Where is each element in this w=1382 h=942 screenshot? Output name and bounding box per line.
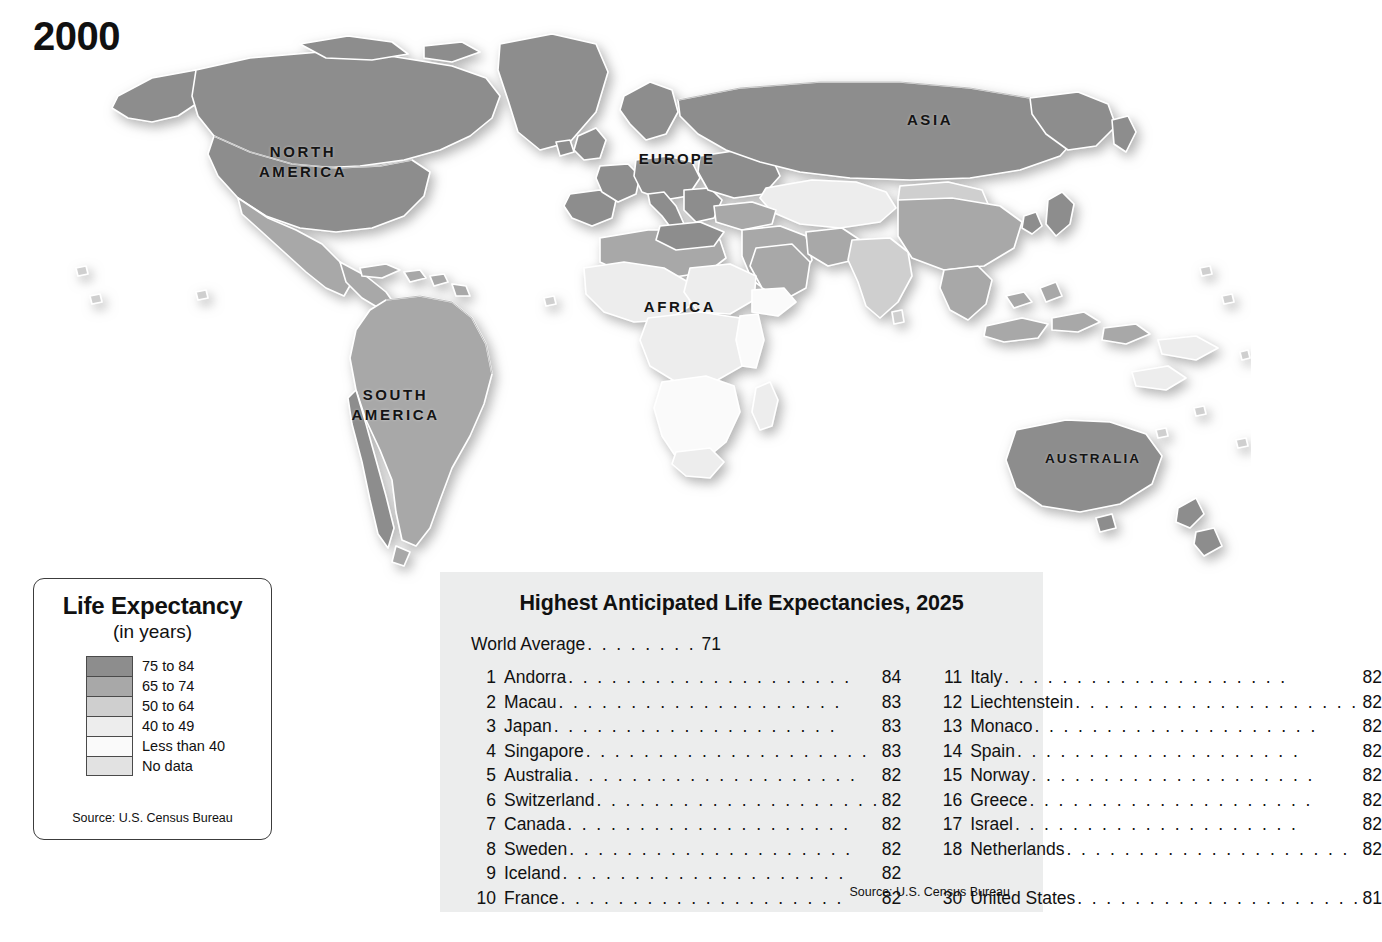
rank-value: 83	[882, 692, 901, 713]
rank-value: 82	[1362, 716, 1381, 737]
world-average-row: World Average . . . . . . . . 71	[471, 634, 721, 655]
dot-leader: . . . . . . . . . . . . . . . . . . . .	[1067, 839, 1361, 860]
dot-leader: . . . . . . . . . . . . . . . . . . . .	[1017, 741, 1361, 762]
rank-country-name: Macau	[504, 692, 557, 713]
rank-row: 18Netherlands. . . . . . . . . . . . . .…	[937, 839, 1382, 864]
rank-country-name: Norway	[970, 765, 1029, 786]
legend-swatch-less-than-40	[86, 736, 133, 756]
rank-row: 9Iceland. . . . . . . . . . . . . . . . …	[471, 863, 901, 888]
rank-country-name: Italy	[970, 667, 1002, 688]
rank-country-name: Andorra	[504, 667, 566, 688]
legend-label: 75 to 84	[142, 658, 194, 674]
rank-row: 15Norway. . . . . . . . . . . . . . . . …	[937, 765, 1382, 790]
rank-country-name: Japan	[504, 716, 552, 737]
legend-class-list: 75 to 84 65 to 74 50 to 64 40 to 49 Less…	[34, 656, 271, 776]
rank-number: 10	[471, 888, 496, 909]
rank-number: 8	[471, 839, 496, 860]
rank-row: 12Liechtenstein. . . . . . . . . . . . .…	[937, 692, 1382, 717]
rank-country-name: Switzerland	[504, 790, 594, 811]
legend-item: 50 to 64	[86, 696, 271, 716]
dot-leader: . . . . . . . . . . . . . . . . . . . .	[562, 863, 879, 884]
rank-row: 5Australia. . . . . . . . . . . . . . . …	[471, 765, 901, 790]
legend-label: 65 to 74	[142, 678, 194, 694]
legend-label: Less than 40	[142, 738, 225, 754]
rank-row: 2Macau. . . . . . . . . . . . . . . . . …	[471, 692, 901, 717]
legend-swatch-75-84	[86, 656, 133, 676]
legend-source: Source: U.S. Census Bureau	[34, 811, 271, 825]
legend-title: Life Expectancy	[34, 592, 271, 620]
rank-row-spacer	[937, 863, 1382, 888]
rank-country-name: Singapore	[504, 741, 584, 762]
rank-value: 82	[882, 863, 901, 884]
continent-label-africa: AFRICA	[625, 297, 735, 317]
legend-item: No data	[86, 756, 271, 776]
dot-leader: . . . . . . . . . . . . . . . . . . . .	[574, 765, 880, 786]
rank-country-name: Netherlands	[970, 839, 1064, 860]
dot-leader: . . . . . . . . . . . . . . . . . . . .	[559, 692, 880, 713]
dot-leader: . . . . . . . . . . . . . . . . . . . .	[586, 741, 880, 762]
rank-row: 4Singapore. . . . . . . . . . . . . . . …	[471, 741, 901, 766]
rank-number: 17	[937, 814, 962, 835]
rank-country-name: Spain	[970, 741, 1015, 762]
dot-leader: . . . . . . . . . . . . . . . . . . . .	[1032, 765, 1361, 786]
rank-value: 81	[1362, 888, 1381, 909]
rank-row: 6Switzerland. . . . . . . . . . . . . . …	[471, 790, 901, 815]
rank-number: 13	[937, 716, 962, 737]
continent-label-asia: ASIA	[880, 110, 980, 130]
rank-row: 3Japan. . . . . . . . . . . . . . . . . …	[471, 716, 901, 741]
continent-label-australia: AUSTRALIA	[1028, 450, 1158, 468]
legend-label: 40 to 49	[142, 718, 194, 734]
rank-number: 15	[937, 765, 962, 786]
rank-value: 83	[882, 716, 901, 737]
rank-number: 2	[471, 692, 496, 713]
rank-number: 18	[937, 839, 962, 860]
rank-number: 3	[471, 716, 496, 737]
rank-country-name: Monaco	[970, 716, 1032, 737]
panel-source: Source: U.S. Census Bureau	[850, 885, 1011, 899]
rank-value: 84	[882, 667, 901, 688]
rank-country-name: France	[504, 888, 558, 909]
rank-country-name: Greece	[970, 790, 1027, 811]
rank-row: 10France. . . . . . . . . . . . . . . . …	[471, 888, 901, 913]
rank-row: 14Spain. . . . . . . . . . . . . . . . .…	[937, 741, 1382, 766]
legend-item: 75 to 84	[86, 656, 271, 676]
legend-swatch-40-49	[86, 716, 133, 736]
rank-column-left: 1Andorra. . . . . . . . . . . . . . . . …	[471, 667, 901, 912]
world-average-value: 71	[702, 634, 721, 655]
rank-row: 8Sweden. . . . . . . . . . . . . . . . .…	[471, 839, 901, 864]
dot-leader: . . . . . . . . . . . . . . . . . . . .	[567, 814, 879, 835]
rank-row: 7Canada. . . . . . . . . . . . . . . . .…	[471, 814, 901, 839]
rank-number: 5	[471, 765, 496, 786]
dot-leader: . . . . . . . . . . . . . . . . . . . .	[1015, 814, 1361, 835]
legend-swatch-50-64	[86, 696, 133, 716]
rank-value: 83	[882, 741, 901, 762]
rank-number: 11	[937, 667, 962, 688]
rank-value: 82	[1362, 667, 1381, 688]
rank-value: 82	[882, 839, 901, 860]
map-legend: Life Expectancy (in years) 75 to 84 65 t…	[33, 578, 272, 840]
rank-value: 82	[1362, 741, 1381, 762]
rank-number: 4	[471, 741, 496, 762]
rank-number: 7	[471, 814, 496, 835]
rank-value: 82	[882, 790, 901, 811]
legend-swatch-no-data	[86, 756, 133, 776]
rank-value: 82	[1362, 790, 1381, 811]
rank-number: 12	[937, 692, 962, 713]
world-average-label: World Average	[471, 634, 585, 655]
legend-item: 65 to 74	[86, 676, 271, 696]
dot-leader: . . . . . . . . . . . . . . . . . . . .	[554, 716, 880, 737]
dot-leader: . . . . . . . . . . . . . . . . . . . .	[568, 667, 879, 688]
dot-leader: . . . . . . . . . . . . . . . . . . . .	[596, 790, 879, 811]
rank-column-right: 11Italy. . . . . . . . . . . . . . . . .…	[937, 667, 1382, 912]
legend-label: 50 to 64	[142, 698, 194, 714]
legend-item: 40 to 49	[86, 716, 271, 736]
rank-country-name: Canada	[504, 814, 565, 835]
continent-label-europe: EUROPE	[622, 149, 732, 169]
rank-number: 14	[937, 741, 962, 762]
rank-number: 9	[471, 863, 496, 884]
rank-value: 82	[1362, 814, 1381, 835]
rank-country-name: Iceland	[504, 863, 560, 884]
rank-row: 16Greece. . . . . . . . . . . . . . . . …	[937, 790, 1382, 815]
legend-subtitle: (in years)	[34, 621, 271, 643]
legend-swatch-65-74	[86, 676, 133, 696]
